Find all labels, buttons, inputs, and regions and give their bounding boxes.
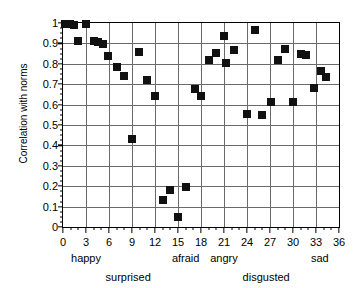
y-tick-minor	[60, 221, 63, 222]
x-tick-mark	[177, 227, 178, 233]
x-tick-minor	[116, 227, 117, 230]
data-point	[151, 92, 159, 100]
y-tick-mark	[58, 43, 63, 44]
x-tick-minor	[285, 227, 286, 230]
category-label-afraid: afraid	[172, 252, 200, 264]
gridline-vertical	[316, 23, 317, 227]
y-tick-minor	[60, 130, 63, 131]
y-tick-minor	[60, 94, 63, 95]
y-tick-label: 0.4	[43, 139, 58, 151]
gridline-vertical	[247, 23, 248, 227]
x-tick-minor	[185, 227, 186, 230]
x-tick-mark	[154, 227, 155, 233]
y-tick-label: 1	[52, 17, 58, 29]
x-tick-label: 3	[83, 236, 89, 248]
y-tick-minor	[60, 140, 63, 141]
x-tick-label: 15	[172, 236, 184, 248]
x-tick-mark	[62, 227, 63, 233]
x-tick-mark	[338, 227, 339, 233]
y-tick-minor	[60, 99, 63, 100]
category-label-disgusted: disgusted	[243, 271, 290, 283]
y-tick-minor	[60, 74, 63, 75]
gridline-vertical	[132, 23, 133, 227]
x-tick-minor	[78, 227, 79, 230]
y-tick-mark	[58, 84, 63, 85]
data-point	[135, 48, 143, 56]
data-point	[159, 196, 167, 204]
y-tick-minor	[60, 170, 63, 171]
x-tick-minor	[323, 227, 324, 230]
x-tick-minor	[231, 227, 232, 230]
x-tick-mark	[292, 227, 293, 233]
data-point	[182, 183, 190, 191]
y-tick-mark	[58, 104, 63, 105]
x-tick-label: 21	[218, 236, 230, 248]
gridline-vertical	[178, 23, 179, 227]
x-tick-minor	[124, 227, 125, 230]
y-tick-label: 0.7	[43, 78, 58, 90]
x-tick-mark	[108, 227, 109, 233]
data-point	[205, 56, 213, 64]
data-point	[104, 52, 112, 60]
y-tick-minor	[60, 119, 63, 120]
y-tick-minor	[60, 191, 63, 192]
gridline-vertical	[86, 23, 87, 227]
y-tick-label: 0.5	[43, 119, 58, 131]
x-tick-minor	[262, 227, 263, 230]
y-tick-minor	[60, 160, 63, 161]
x-tick-minor	[208, 227, 209, 230]
y-tick-minor	[60, 176, 63, 177]
x-tick-mark	[269, 227, 270, 233]
data-point	[197, 92, 205, 100]
y-tick-minor	[60, 38, 63, 39]
data-point	[166, 186, 174, 194]
y-tick-mark	[58, 63, 63, 64]
x-tick-minor	[239, 227, 240, 230]
data-point	[251, 26, 259, 34]
category-label-surprised: surprised	[106, 271, 151, 283]
y-tick-minor	[60, 211, 63, 212]
y-tick-mark	[58, 206, 63, 207]
y-tick-minor	[60, 68, 63, 69]
y-tick-minor	[60, 53, 63, 54]
y-tick-minor	[60, 181, 63, 182]
y-tick-label: 0.6	[43, 99, 58, 111]
category-label-sad: sad	[311, 252, 329, 264]
x-tick-minor	[300, 227, 301, 230]
data-point	[82, 20, 90, 28]
x-tick-label: 18	[195, 236, 207, 248]
data-point	[220, 32, 228, 40]
y-tick-mark	[58, 124, 63, 125]
gridline-vertical	[155, 23, 156, 227]
x-tick-label: 30	[287, 236, 299, 248]
x-tick-label: 33	[310, 236, 322, 248]
data-point	[74, 37, 82, 45]
y-tick-minor	[60, 58, 63, 59]
y-tick-minor	[60, 196, 63, 197]
x-tick-label: 36	[333, 236, 345, 248]
x-tick-mark	[223, 227, 224, 233]
data-point	[222, 59, 230, 67]
x-tick-label: 0	[60, 236, 66, 248]
data-point	[143, 76, 151, 84]
y-tick-minor	[60, 79, 63, 80]
y-tick-label: 0.1	[43, 201, 58, 213]
data-point	[212, 49, 220, 57]
data-point	[258, 111, 266, 119]
data-point	[120, 72, 128, 80]
x-tick-minor	[139, 227, 140, 230]
y-tick-minor	[60, 135, 63, 136]
y-tick-minor	[60, 33, 63, 34]
x-tick-label: 9	[129, 236, 135, 248]
y-tick-minor	[60, 155, 63, 156]
data-point	[128, 135, 136, 143]
x-tick-minor	[308, 227, 309, 230]
x-tick-mark	[131, 227, 132, 233]
x-tick-minor	[216, 227, 217, 230]
y-tick-minor	[60, 201, 63, 202]
y-tick-label: 0.3	[43, 160, 58, 172]
x-tick-minor	[147, 227, 148, 230]
x-tick-mark	[315, 227, 316, 233]
x-tick-minor	[70, 227, 71, 230]
x-tick-minor	[93, 227, 94, 230]
